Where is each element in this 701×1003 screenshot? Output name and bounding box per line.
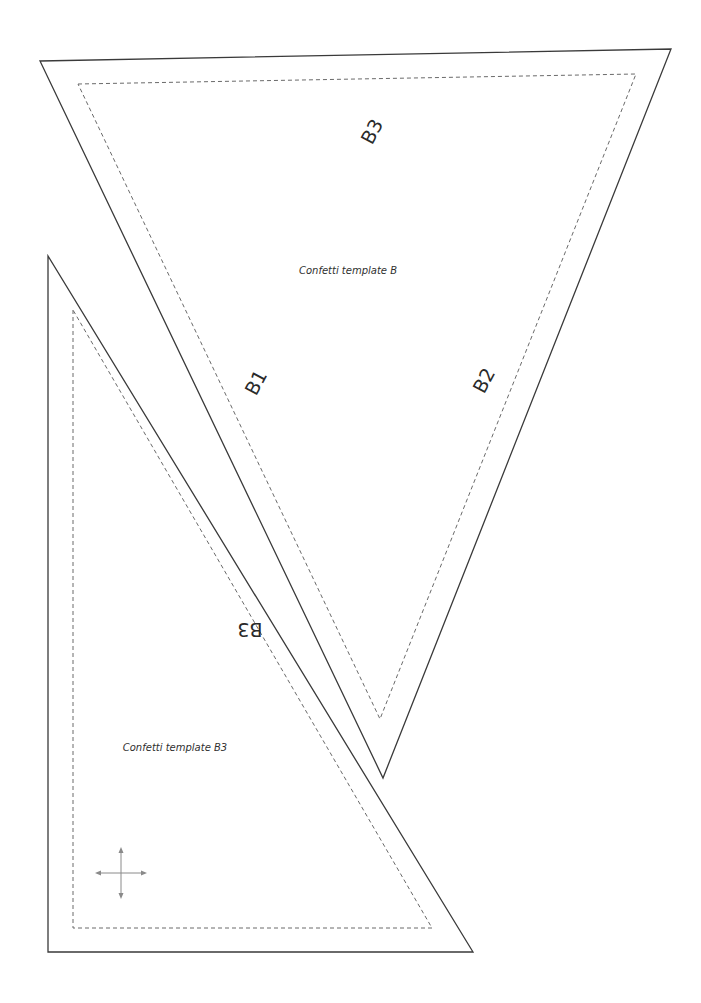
template-b-seam-line [78,74,636,719]
template-b-cut-line [40,49,671,778]
template-b-edge-label-left: B1 [240,366,271,399]
template-b3-caption: Confetti template B3 [123,742,227,753]
template-b-edge-label-top: B3 [356,115,387,148]
grainline-cross-icon [95,847,147,899]
template-b3-edge-label-hypotenuse: B3 [237,619,262,641]
template-b: B3 Confetti template B B1 B2 [40,49,671,778]
template-b3: B3 Confetti template B3 [48,256,473,952]
template-b3-cut-line [48,256,473,952]
template-sheet: B3 Confetti template B B1 B2 B3 Confetti… [0,0,701,1003]
template-b-caption: Confetti template B [299,265,397,276]
template-b-edge-label-right: B2 [468,364,499,397]
